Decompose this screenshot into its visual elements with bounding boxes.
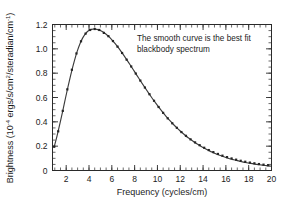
data-point: [98, 29, 100, 31]
data-point: [249, 161, 251, 163]
data-point: [89, 29, 91, 31]
y-axis-title-mid2: /steradian/cm: [5, 21, 15, 75]
data-point: [66, 88, 68, 90]
data-point: [103, 32, 105, 34]
data-point: [75, 52, 77, 54]
data-point: [194, 141, 196, 143]
data-point: [144, 86, 146, 88]
data-point: [253, 162, 255, 164]
x-tick-label: 16: [221, 174, 231, 184]
data-point: [157, 106, 159, 108]
data-point: [189, 138, 191, 140]
x-tick-label: 14: [198, 174, 208, 184]
data-point: [180, 131, 182, 133]
data-point: [235, 159, 237, 161]
x-tick-label: 6: [109, 174, 114, 184]
y-tick-label: 0.4: [36, 117, 48, 127]
x-tick-label: 20: [267, 174, 277, 184]
data-point: [217, 153, 219, 155]
data-point: [221, 155, 223, 157]
data-point: [121, 52, 123, 54]
x-tick-label: 2: [64, 174, 69, 184]
y-tick-label: 0.2: [36, 141, 48, 151]
x-tick-label: 12: [176, 174, 186, 184]
svg-text:Brightness (10-4 ergs/s/cm2/st: Brightness (10-4 ergs/s/cm2/steradian/cm…: [5, 13, 15, 184]
data-point: [71, 69, 73, 71]
y-tick-label: 0.8: [36, 68, 48, 78]
data-point: [267, 164, 269, 166]
data-point: [230, 157, 232, 159]
data-point: [84, 33, 86, 35]
data-point: [107, 35, 109, 37]
data-point: [80, 40, 82, 42]
y-axis-title-prefix: Brightness (10: [5, 125, 15, 183]
data-point: [94, 28, 96, 30]
y-tick-label: 1.2: [36, 20, 48, 30]
x-tick-label: 4: [87, 174, 92, 184]
data-point: [185, 135, 187, 137]
data-point: [203, 147, 205, 149]
annotation-line-2: blackbody spectrum: [137, 45, 210, 54]
data-point: [171, 122, 173, 124]
x-tick-label: 18: [244, 174, 254, 184]
y-axis-title-mid: ergs/s/cm: [5, 78, 15, 120]
figure-container: 2468101214161820 00.20.40.60.81.01.2 Fre…: [0, 0, 289, 202]
data-point: [240, 160, 242, 162]
data-point: [139, 79, 141, 81]
y-axis-title: Brightness (10-4 ergs/s/cm2/steradian/cm…: [5, 13, 15, 184]
data-point: [153, 100, 155, 102]
data-point: [262, 164, 264, 166]
data-point: [130, 65, 132, 67]
x-tick-label: 10: [153, 174, 163, 184]
y-axis-title-suffix: ): [5, 13, 15, 16]
blackbody-spectrum-chart: 2468101214161820 00.20.40.60.81.01.2 Fre…: [0, 0, 289, 202]
data-point: [244, 161, 246, 163]
data-point: [226, 156, 228, 158]
data-point: [148, 93, 150, 95]
x-axis-title: Frequency (cycles/cm): [117, 187, 208, 197]
data-point: [162, 112, 164, 114]
data-point: [116, 46, 118, 48]
y-tick-label: 0: [43, 166, 48, 176]
data-point: [212, 151, 214, 153]
data-point: [126, 59, 128, 61]
data-point: [199, 144, 201, 146]
data-point: [167, 117, 169, 119]
data-point: [53, 146, 55, 148]
y-tick-label: 0.6: [36, 93, 48, 103]
annotation-line-1: The smooth curve is the best fit: [137, 34, 251, 43]
data-point: [208, 149, 210, 151]
y-tick-label: 1.0: [36, 44, 48, 54]
data-point: [112, 40, 114, 42]
x-tick-label: 8: [132, 174, 137, 184]
data-point: [176, 127, 178, 129]
data-point: [135, 72, 137, 74]
data-point: [258, 163, 260, 165]
data-point: [62, 110, 64, 112]
data-point: [57, 130, 59, 132]
